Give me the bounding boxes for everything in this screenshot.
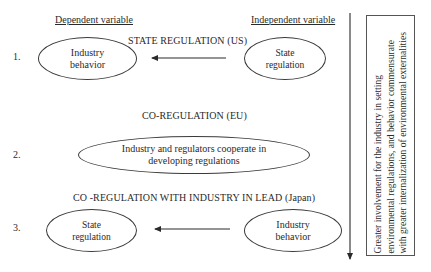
row-title-state-regulation: STATE REGULATION (US) [128, 35, 247, 46]
independent-variable-header: Independent variable [251, 14, 335, 25]
row-number-3: 3. [13, 222, 21, 233]
node-industry-behavior-independent: Industry behavior [244, 209, 342, 252]
side-note-line1: Greater involvement for the industry in … [372, 18, 385, 253]
node-label-line2: behavior [70, 59, 105, 71]
side-note-line3: with greater internalization of environm… [397, 18, 410, 253]
row-title-co-regulation: CO-REGULATION (EU) [142, 110, 247, 121]
row-number-1: 1. [13, 51, 21, 62]
row-number-2: 2. [13, 149, 21, 160]
side-note-line2: environmental regulations, and behavior … [384, 18, 397, 253]
node-industry-behavior-dependent: Industry behavior [38, 37, 137, 80]
node-label-line2: behavior [276, 231, 311, 243]
side-note-box: Greater involvement for the industry in … [366, 15, 415, 256]
node-label-line1: Industry and regulators cooperate in [122, 143, 266, 155]
node-state-regulation-independent: State regulation [244, 37, 326, 80]
node-label-line1: Industry [276, 219, 311, 231]
node-label-line2: regulation [266, 59, 305, 71]
dependent-variable-header: Dependent variable [55, 14, 133, 25]
node-label-line1: Industry [70, 47, 105, 59]
side-note-text: Greater involvement for the industry in … [372, 18, 410, 253]
node-state-regulation-dependent: State regulation [46, 209, 137, 252]
node-label-line1: State [72, 219, 111, 231]
row-title-co-regulation-industry-lead: CO -REGULATION WITH INDUSTRY IN LEAD (Ja… [73, 192, 315, 203]
node-label-line1: State [266, 47, 305, 59]
node-label-line2: developing regulations [122, 155, 266, 167]
node-cooperation: Industry and regulators cooperate in dev… [78, 136, 310, 174]
node-label-line2: regulation [72, 231, 111, 243]
